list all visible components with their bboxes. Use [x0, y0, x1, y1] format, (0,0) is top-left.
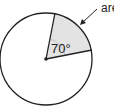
angle-label: 70° [51, 41, 71, 56]
circle-sector-diagram: 70° area [0, 0, 114, 109]
callout-label: area [101, 1, 114, 15]
callout-arrow-line [82, 9, 97, 23]
center-point [44, 57, 48, 61]
